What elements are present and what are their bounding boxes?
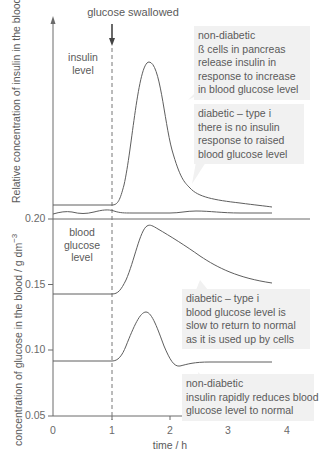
note-pointer xyxy=(192,162,206,184)
note-line: as it is used up by cells xyxy=(186,333,306,347)
insulin-y-axis-label: Relative concentration of insulin in the… xyxy=(10,0,22,203)
x-tick-label: 0 xyxy=(50,424,56,436)
note-line: non-diabetic xyxy=(186,377,310,391)
note-glucose-diabetic: diabetic – type i blood glucose level is… xyxy=(182,289,310,349)
glucose-swallowed-label: glucose swallowed xyxy=(78,6,188,19)
glucose-y-axis-sup: −3 xyxy=(10,234,19,243)
note-glucose-nondiabetic: non-diabetic insulin rapidly reduces blo… xyxy=(182,374,314,421)
label-line: insulin xyxy=(62,51,104,64)
note-line: diabetic – type i xyxy=(198,107,300,121)
label-line: level xyxy=(60,251,104,264)
note-line: insulin rapidly reduces blood xyxy=(186,391,310,405)
note-line: blood glucose level is xyxy=(186,306,306,320)
down-arrow-head-icon xyxy=(109,38,115,46)
x-axis-label: time / h xyxy=(140,439,200,452)
note-line: blood glucose level xyxy=(198,148,300,162)
label-line: blood xyxy=(60,226,104,239)
note-line: response to increase xyxy=(198,70,306,84)
note-line: ß cells in pancreas xyxy=(198,43,306,57)
note-insulin-nondiabetic: non-diabetic ß cells in pancreas release… xyxy=(194,26,310,100)
y-tick-label: 0.10 xyxy=(25,343,45,355)
note-line: in blood glucose level xyxy=(198,83,306,97)
blood-glucose-level-label: blood glucose level xyxy=(60,226,104,264)
x-tick-label: 1 xyxy=(109,424,115,436)
y-axis-arrow-icon xyxy=(51,16,56,24)
note-line: non-diabetic xyxy=(198,29,306,43)
y-tick-label: 0.05 xyxy=(25,409,45,421)
glucose-y-axis-text: concentration of glucose in the blood / … xyxy=(12,243,24,446)
note-line: glucose level to normal xyxy=(186,404,310,418)
x-tick-label: 2 xyxy=(167,424,173,436)
insulin-diabetic-curve xyxy=(53,210,272,214)
x-tick-label: 4 xyxy=(284,424,290,436)
y-tick-label: 0.15 xyxy=(25,278,45,290)
x-tick-label: 3 xyxy=(225,424,231,436)
note-insulin-diabetic: diabetic – type i there is no insulin re… xyxy=(194,104,304,164)
y-tick-label: 0.20 xyxy=(25,212,45,224)
note-line: release insulin in xyxy=(198,56,306,70)
label-line: glucose xyxy=(60,239,104,252)
note-line: there is no insulin xyxy=(198,121,300,135)
note-line: diabetic – type i xyxy=(186,292,306,306)
glucose-y-axis-label: concentration of glucose in the blood / … xyxy=(10,234,24,446)
label-line: level xyxy=(62,64,104,77)
insulin-level-label: insulin level xyxy=(62,51,104,76)
note-line: response to raised xyxy=(198,134,300,148)
note-line: slow to return to normal xyxy=(186,319,306,333)
